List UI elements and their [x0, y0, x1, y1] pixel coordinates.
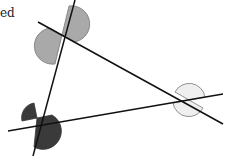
geometry-diagram: [0, 0, 228, 156]
line-top-to-right: [38, 22, 223, 124]
